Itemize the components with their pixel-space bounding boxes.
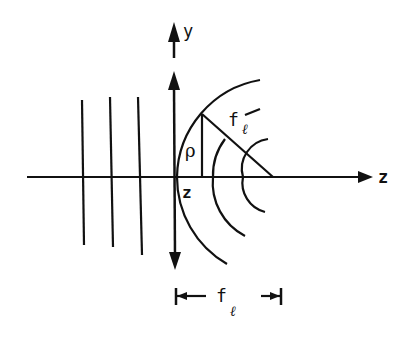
focal-f-symbol: f [216, 285, 227, 306]
rho-label: ρ [185, 140, 196, 161]
lens-top-arrow-icon [168, 71, 180, 90]
lens-position-label: z [182, 183, 192, 202]
lens: z [168, 71, 192, 270]
wavefront-arc [213, 139, 245, 236]
y-axis-arrow-icon [168, 22, 180, 42]
outgoing-wavefronts [177, 80, 268, 264]
tick-mark [245, 109, 260, 115]
focal-length-dimension: f [176, 285, 281, 306]
wavefront-arc [242, 139, 268, 212]
dimension-right-arrow-icon [270, 292, 280, 300]
slant-ell-subscript: ℓ [242, 121, 248, 137]
wavefront-line [82, 100, 84, 245]
dimension-left-arrow-icon [177, 292, 187, 300]
z-axis: z [27, 167, 388, 187]
lens-focusing-diagram: y z z ρ f ℓ [0, 0, 411, 339]
y-axis-label: y [183, 21, 193, 41]
y-axis: y [168, 21, 193, 58]
slant-f-symbol: f [228, 109, 239, 130]
slant-focal-label: f ℓ [228, 109, 248, 137]
lens-bottom-arrow-icon [169, 252, 181, 270]
z-axis-arrow-icon [358, 171, 373, 183]
wavefront-line [110, 97, 113, 247]
focal-ell-subscript: ℓ [230, 303, 236, 319]
z-axis-label: z [378, 167, 388, 187]
wavefront-arc [177, 80, 260, 264]
